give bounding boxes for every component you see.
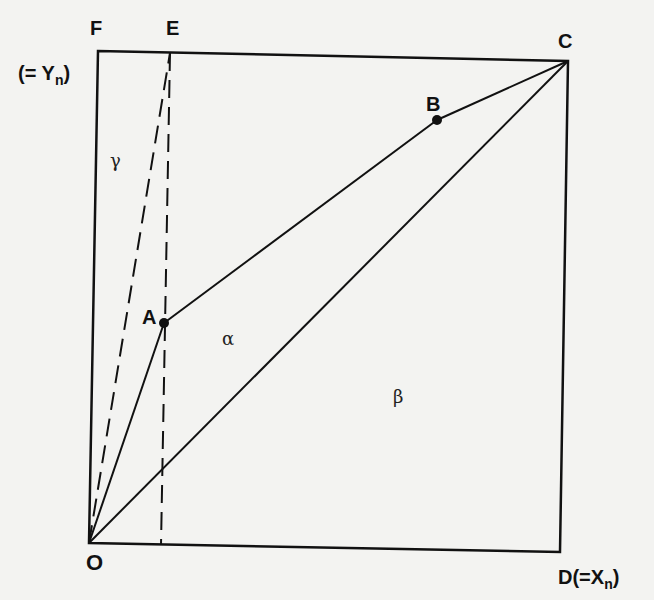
y-axis-label-close: ) [63,62,70,84]
point-a [159,318,169,328]
line-oc [89,61,568,543]
region-gamma: γ [110,152,121,170]
label-d-text: D(=X [558,566,604,588]
label-d: D(=Xn) [558,567,619,591]
y-axis-label: (= Yn) [18,63,70,87]
label-f: F [90,18,102,38]
diagram-lines [0,0,654,600]
y-axis-label-text: (= Y [18,62,55,84]
label-a: A [142,307,156,327]
line-bc [437,61,568,120]
point-b [432,115,442,125]
label-o: O [86,552,103,574]
diagram-canvas: F E C B A O (= Yn) D(=Xn) α β γ [0,0,654,600]
region-beta: β [393,388,403,406]
label-d-sub: n [604,576,613,592]
dashed-vertical-e [161,53,170,545]
label-b: B [426,94,440,114]
label-e: E [166,18,179,38]
line-ab [164,120,437,323]
label-c: C [558,31,572,51]
dashed-line-oe [89,53,170,543]
label-d-close: ) [613,566,620,588]
line-oa [89,323,164,543]
region-alpha: α [222,330,234,348]
